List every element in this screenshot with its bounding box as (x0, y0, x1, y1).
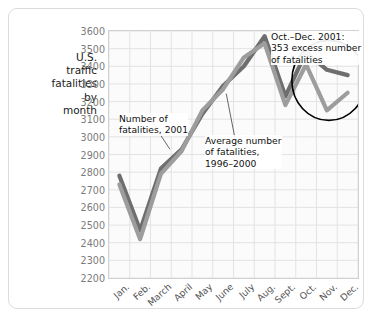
chart-frame: U.S.trafficfatalitiesbymonth 22002300240… (8, 8, 364, 309)
y-tick-2700: 2700 (81, 184, 105, 195)
x-tick-may: May (193, 281, 214, 302)
x-tick-aug: Aug. (254, 281, 277, 303)
y-tick-2800: 2800 (81, 167, 105, 178)
annotation-series-average: Average numberof fatalities,1996–2000 (205, 135, 282, 169)
y-tick-2300: 2300 (81, 255, 105, 266)
annotation-series-average-line-1: of fatalities, (205, 146, 282, 157)
x-tick-april: April (171, 281, 194, 303)
x-tick-oct: Oct. (297, 281, 318, 302)
x-tick-june: June (213, 281, 235, 303)
annotation-series-average-line-0: Average number (205, 135, 282, 146)
x-axis-tick-labels: Jan.Feb.MarchAprilMayJuneJulyAug.Sept.Oc… (108, 281, 359, 319)
y-tick-2500: 2500 (81, 220, 105, 231)
annotation-excess-line-2: of fatalities (271, 54, 361, 65)
y-tick-2900: 2900 (81, 149, 105, 160)
x-tick-nov: Nov. (317, 281, 339, 303)
annotation-series-2001-line-1: fatalities, 2001 (119, 124, 188, 135)
y-tick-3300: 3300 (81, 78, 105, 89)
y-tick-3400: 3400 (81, 61, 105, 72)
y-tick-2400: 2400 (81, 237, 105, 248)
y-tick-3500: 3500 (81, 43, 105, 54)
x-tick-sept: Sept. (273, 281, 298, 305)
annotation-excess-line-1: 353 excess number (271, 42, 361, 53)
annotation-excess-fatalities: Oct.–Dec. 2001:353 excess numberof fatal… (271, 31, 361, 65)
y-tick-2200: 2200 (81, 273, 105, 284)
y-tick-2600: 2600 (81, 202, 105, 213)
y-tick-3100: 3100 (81, 114, 105, 125)
annotation-series-average-line-2: 1996–2000 (205, 158, 282, 169)
annotation-series-2001: Number offatalities, 2001 (119, 113, 188, 136)
annotation-series-2001-line-0: Number of (119, 113, 188, 124)
x-tick-july: July (237, 281, 257, 300)
y-tick-3200: 3200 (81, 96, 105, 107)
x-tick-dec: Dec. (337, 281, 360, 303)
annotation-excess-line-0: Oct.–Dec. 2001: (271, 31, 361, 42)
y-tick-3000: 3000 (81, 131, 105, 142)
x-tick-jan: Jan. (112, 281, 132, 301)
y-tick-3600: 3600 (81, 26, 105, 37)
